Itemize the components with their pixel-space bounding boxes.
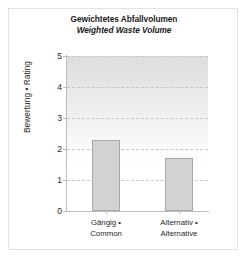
ytick-label-2: 2 <box>40 145 62 154</box>
ytick-mark-5 <box>63 56 66 57</box>
ytick-mark-1 <box>63 180 66 181</box>
xtick-mark-1 <box>179 211 180 214</box>
ytick-label-1: 1 <box>40 176 62 185</box>
x-axis-line <box>66 211 209 212</box>
bar-gaengig-common <box>92 140 120 211</box>
xtick-label-line1: Gängig • <box>91 218 121 227</box>
y-tick-labels: 5 4 3 2 1 0 <box>38 0 62 264</box>
ytick-label-0: 0 <box>40 207 62 216</box>
ytick-label-4: 4 <box>40 83 62 92</box>
ytick-label-3: 3 <box>40 114 62 123</box>
y-axis-title: Bewertung • Rating <box>23 61 32 133</box>
gridline-2 <box>67 149 208 150</box>
chart-figure: Gewichtetes Abfallvolumen Weighted Waste… <box>0 0 247 264</box>
plot-area <box>67 56 208 211</box>
gridline-3 <box>67 118 208 119</box>
ytick-mark-4 <box>63 87 66 88</box>
ytick-mark-2 <box>63 149 66 150</box>
ytick-mark-3 <box>63 118 66 119</box>
xtick-label-alternativ-alternative: Alternativ • Alternative <box>136 218 222 239</box>
ytick-label-5: 5 <box>40 52 62 61</box>
xtick-mark-0 <box>106 211 107 214</box>
bar-alternativ-alternative <box>165 158 193 211</box>
xtick-label-line2: Alternative <box>136 229 222 240</box>
gridline-4 <box>67 87 208 88</box>
gridline-5 <box>67 56 208 57</box>
y-axis-line <box>66 55 67 212</box>
xtick-label-line1: Alternativ • <box>160 218 197 227</box>
ytick-mark-0 <box>63 211 66 212</box>
